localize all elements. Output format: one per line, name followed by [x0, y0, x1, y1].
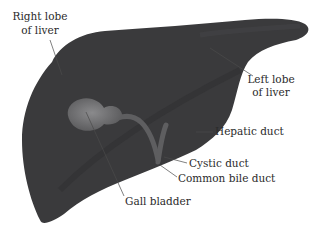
label-cystic-duct: Cystic duct [189, 157, 250, 169]
label-right-lobe-line2: of liver [21, 24, 59, 36]
label-hepatic-duct: Hepatic duct [215, 125, 285, 137]
label-left-lobe-line2: of liver [252, 86, 290, 98]
liver-shape [22, 19, 308, 223]
label-gall-bladder: Gall bladder [125, 195, 192, 207]
label-left-lobe-line1: Left lobe [247, 73, 294, 85]
label-right-lobe-line1: Right lobe [13, 10, 68, 22]
liver-diagram: Right lobe of liver Left lobe of liver H… [0, 0, 325, 235]
label-common-bile-duct: Common bile duct [178, 172, 276, 184]
